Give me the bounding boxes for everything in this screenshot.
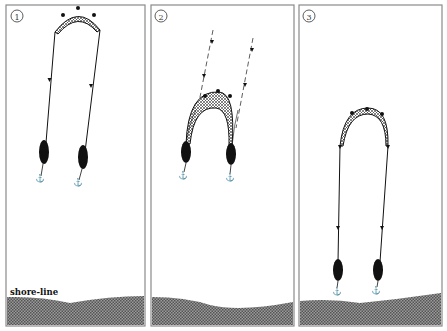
anchor-icon: ⚓ — [73, 177, 83, 187]
seine-net-diagram: 1 2 3 ⚓ ⚓ shore-line — [0, 0, 447, 331]
panel-1-ropes — [45, 30, 100, 160]
panel-1-boat-right — [78, 145, 88, 180]
svg-text:⚓: ⚓ — [35, 173, 45, 183]
panel-1-boat-left — [39, 140, 49, 176]
svg-text:⚓: ⚓ — [178, 170, 188, 180]
panel-2-shore — [152, 297, 293, 325]
panel-1-net — [55, 6, 100, 34]
panel-2-boat-left — [181, 141, 191, 172]
panel-3-ropes — [336, 145, 390, 262]
panel-3-shore — [300, 293, 441, 325]
svg-text:1: 1 — [14, 13, 19, 22]
panel-2-boat-right — [226, 143, 236, 174]
panel-1-shore — [7, 296, 144, 325]
svg-text:⚓: ⚓ — [371, 285, 381, 295]
panel-3-net — [340, 107, 388, 146]
panel-3-boat-left — [333, 259, 343, 288]
svg-text:2: 2 — [158, 13, 163, 22]
shore-line-label: shore-line — [10, 287, 59, 297]
panel-3 — [299, 5, 442, 326]
svg-text:⚓: ⚓ — [332, 286, 342, 296]
panel-1 — [6, 5, 145, 326]
anchor-icon: ⚓ — [225, 172, 235, 182]
svg-text:⚓: ⚓ — [225, 172, 235, 182]
panel-3-boat-right — [373, 259, 383, 287]
anchor-icon: ⚓ — [178, 170, 188, 180]
panel-2-number: 2 — [155, 10, 167, 22]
svg-text:⚓: ⚓ — [73, 177, 83, 187]
anchor-icon: ⚓ — [332, 286, 342, 296]
panel-2-net — [186, 89, 238, 146]
anchor-icon: ⚓ — [35, 173, 45, 183]
panel-3-number: 3 — [303, 10, 315, 22]
panel-2 — [151, 5, 294, 326]
svg-text:3: 3 — [306, 13, 311, 22]
anchor-icon: ⚓ — [371, 285, 381, 295]
panel-1-number: 1 — [11, 10, 23, 22]
